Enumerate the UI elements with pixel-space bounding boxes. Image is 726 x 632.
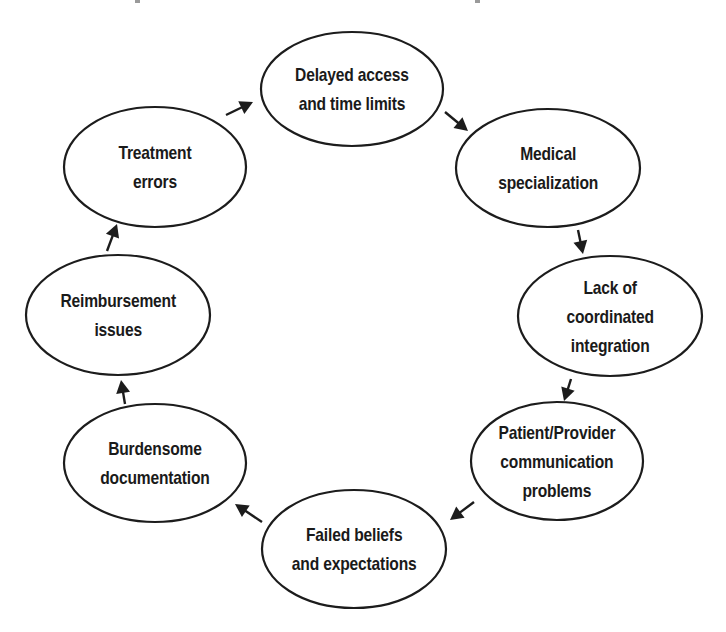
arrowhead-icon — [561, 386, 574, 401]
node-label-line: Reimbursement — [60, 286, 176, 315]
node-label-line: Delayed access — [295, 60, 409, 89]
node-label-line: Patient/Provider — [499, 418, 616, 447]
node-label-line: Treatment — [118, 138, 191, 167]
node-label-treatment-errors: Treatmenterrors — [64, 107, 246, 227]
arrowhead-icon — [450, 507, 465, 520]
node-label-failed-beliefs: Failed beliefsand expectations — [262, 490, 446, 608]
node-label-lack-of-coordinated-integration: Lack ofcoordinatedintegration — [518, 256, 702, 376]
arrow-burdensome-documentation-to-reimbursement-issues — [116, 380, 130, 404]
arrow-medical-specialization-to-lack-of-coordinated-integration — [573, 230, 587, 254]
node-label-line: integration — [571, 331, 650, 360]
node-label-line: errors — [133, 167, 177, 196]
arrow-shaft — [244, 510, 262, 522]
node-label-line: Failed beliefs — [306, 520, 402, 549]
node-label-burdensome-documentation: Burdensomedocumentation — [64, 404, 246, 522]
node-label-patient-provider-communication: Patient/Providercommunicationproblems — [471, 402, 643, 520]
node-label-line: documentation — [100, 463, 210, 492]
node-label-line: communication — [500, 447, 613, 476]
node-label-line: Burdensome — [108, 434, 202, 463]
node-label-line: Medical — [520, 139, 576, 168]
arrowhead-icon — [573, 240, 587, 254]
node-label-reimbursement-issues: Reimbursementissues — [26, 255, 210, 375]
arrow-shaft — [578, 230, 581, 243]
arrow-lack-of-coordinated-integration-to-patient-provider-communication — [561, 379, 574, 401]
cutoff-mark-right — [475, 0, 480, 3]
arrow-reimbursement-issues-to-treatment-errors — [106, 224, 119, 251]
node-label-line: issues — [94, 315, 142, 344]
node-label-medical-specialization: Medicalspecialization — [456, 109, 640, 227]
node-label-line: specialization — [498, 168, 598, 197]
arrowhead-icon — [116, 380, 130, 394]
node-label-line: and time limits — [299, 89, 406, 118]
node-label-line: Lack of — [583, 273, 636, 302]
node-label-delayed-access: Delayed accessand time limits — [261, 32, 443, 146]
node-label-line: problems — [523, 476, 592, 505]
arrow-shaft — [107, 234, 113, 251]
node-label-line: coordinated — [566, 302, 653, 331]
node-label-line: and expectations — [292, 549, 417, 578]
cutoff-mark-left — [135, 0, 140, 3]
